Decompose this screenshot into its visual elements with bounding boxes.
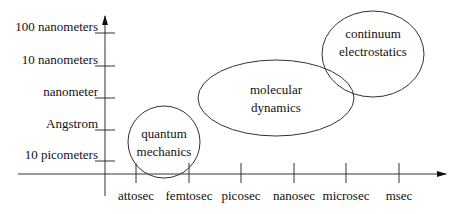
scale-diagram: 100 nanometers10 nanometersnanometerAngs… — [0, 0, 460, 214]
y-tick-label: 10 nanometers — [22, 52, 98, 67]
region-label: quantum — [141, 126, 187, 141]
regime-regions: quantummechanicsmoleculardynamicscontinu… — [128, 11, 424, 178]
y-tick-label: nanometer — [43, 84, 99, 99]
y-tick-label: 10 picometers — [25, 147, 98, 162]
region-outline — [198, 60, 354, 136]
y-tick-label: 100 nanometers — [15, 19, 98, 34]
region-label: electrostatics — [339, 44, 407, 59]
y-tick-label: Angstrom — [46, 116, 98, 131]
x-tick-label: attosec — [118, 188, 154, 203]
x-axis-ticks: attosecfemtosecpicosecnanosecmicrosecmse… — [118, 163, 413, 203]
x-tick-label: microsec — [323, 188, 370, 203]
region-label: continuum — [345, 26, 401, 41]
y-axis-ticks: 100 nanometers10 nanometersnanometerAngs… — [15, 19, 115, 162]
x-tick-label: msec — [386, 188, 413, 203]
x-tick-label: nanosec — [273, 188, 315, 203]
region-label: dynamics — [251, 100, 301, 115]
region-outline — [128, 106, 200, 178]
region-label: mechanics — [137, 144, 192, 159]
x-tick-label: femtosec — [166, 188, 213, 203]
x-tick-label: picosec — [222, 188, 261, 203]
region-label: molecular — [250, 82, 303, 97]
